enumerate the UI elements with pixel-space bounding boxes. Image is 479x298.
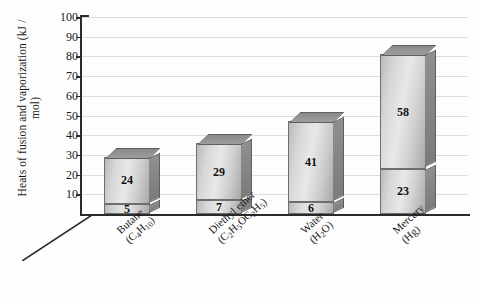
tickmark-100 bbox=[76, 17, 81, 19]
bar-segment-vaporization[interactable]: 24 bbox=[104, 157, 150, 204]
y-tick-60: 60 bbox=[44, 90, 78, 102]
chart-figure: Heats of fusion and vaporization (kJ / m… bbox=[0, 0, 479, 298]
tickmark-90 bbox=[76, 37, 81, 39]
bar-segment-fusion[interactable]: 6 bbox=[288, 202, 334, 214]
y-axis-top-cap bbox=[80, 15, 89, 17]
tickmark-60 bbox=[76, 96, 81, 98]
bar-segment-vaporization[interactable]: 41 bbox=[288, 121, 334, 202]
bar-side-face bbox=[333, 117, 344, 201]
y-tick-90: 90 bbox=[44, 31, 78, 43]
bar-segment-vaporization[interactable]: 58 bbox=[380, 54, 426, 168]
bar-value-label: 58 bbox=[397, 106, 409, 118]
bar-side-face bbox=[149, 152, 160, 203]
axis-depth-line bbox=[22, 215, 92, 261]
bar-side-face bbox=[425, 164, 436, 213]
gridline-100 bbox=[82, 17, 468, 18]
bar-value-label: 23 bbox=[397, 185, 409, 197]
bar-column[interactable]: 5823 bbox=[380, 54, 426, 214]
tickmark-40 bbox=[76, 135, 81, 137]
bar-value-label: 29 bbox=[213, 166, 225, 178]
y-tick-10: 10 bbox=[44, 188, 78, 200]
bar-column[interactable]: 245 bbox=[104, 157, 150, 214]
gridline-90 bbox=[82, 37, 468, 38]
y-tick-70: 70 bbox=[44, 70, 78, 82]
y-tick-100: 100 bbox=[44, 11, 78, 23]
tickmark-10 bbox=[76, 194, 81, 196]
y-tick-20: 20 bbox=[44, 169, 78, 181]
y-tick-30: 30 bbox=[44, 149, 78, 161]
y-tick-50: 50 bbox=[44, 110, 78, 122]
bar-value-label: 6 bbox=[308, 202, 314, 214]
tickmark-20 bbox=[76, 175, 81, 177]
bar-side-face bbox=[425, 50, 436, 168]
tickmark-80 bbox=[76, 56, 81, 58]
bar-value-label: 41 bbox=[305, 156, 317, 168]
y-tick-40: 40 bbox=[44, 129, 78, 141]
tickmark-30 bbox=[76, 155, 81, 157]
y-axis-title: Heats of fusion and vaporization (kJ / m… bbox=[9, 8, 49, 208]
bar-segment-vaporization[interactable]: 29 bbox=[196, 143, 242, 200]
bar-value-label: 5 bbox=[124, 203, 130, 215]
bar-value-label: 24 bbox=[121, 174, 133, 186]
bar-column[interactable]: 416 bbox=[288, 121, 334, 214]
bar-value-label: 7 bbox=[216, 201, 222, 213]
tickmark-70 bbox=[76, 76, 81, 78]
tickmark-50 bbox=[76, 116, 81, 118]
y-tick-80: 80 bbox=[44, 50, 78, 62]
